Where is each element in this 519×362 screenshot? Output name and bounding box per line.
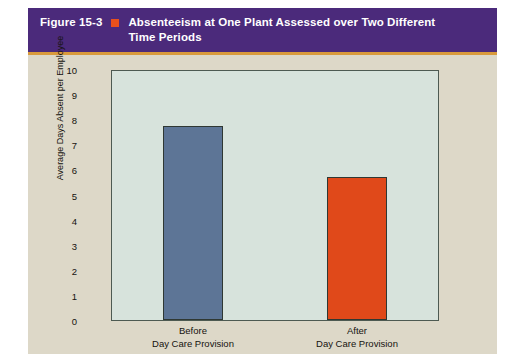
figure-block: Figure 15-3 Absenteeism at One Plant Ass…	[28, 8, 497, 354]
x-axis-label: AfterDay Care Provision	[282, 325, 432, 350]
y-tick-label: 2	[53, 265, 77, 276]
y-tick-label: 4	[53, 215, 77, 226]
y-tick-label: 10	[53, 65, 77, 76]
y-tick-label: 3	[53, 240, 77, 251]
plot-area	[111, 70, 439, 321]
y-tick-label: 0	[53, 316, 77, 327]
orange-square-bullet-icon	[111, 19, 119, 27]
x-axis-label-line1: Before	[118, 325, 268, 338]
x-axis-label-line1: After	[282, 325, 432, 338]
y-tick-label: 8	[53, 115, 77, 126]
bar-before	[163, 126, 223, 320]
chart-area: Average Days Absent per Employee 1098765…	[28, 55, 497, 354]
x-axis-label: BeforeDay Care Provision	[118, 325, 268, 350]
x-axis-label-line2: Day Care Provision	[282, 338, 432, 351]
y-tick-label: 5	[53, 190, 77, 201]
y-tick-label: 7	[53, 140, 77, 151]
y-tick-label: 6	[53, 165, 77, 176]
figure-number: Figure 15-3	[40, 15, 102, 30]
bar-after	[327, 177, 387, 320]
x-axis-label-line2: Day Care Provision	[118, 338, 268, 351]
figure-header: Figure 15-3 Absenteeism at One Plant Ass…	[28, 8, 497, 52]
figure-title: Absenteeism at One Plant Assessed over T…	[128, 15, 450, 45]
y-tick-label: 9	[53, 90, 77, 101]
figure-header-row: Figure 15-3 Absenteeism at One Plant Ass…	[40, 15, 487, 45]
y-tick-label: 1	[53, 290, 77, 301]
